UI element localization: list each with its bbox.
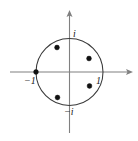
complex-plane-figure: i 1 −1 −i <box>0 0 138 141</box>
root-dot-left <box>34 70 39 75</box>
root-dot-upper-right <box>87 56 92 61</box>
root-dot-lower-right <box>87 84 92 89</box>
label-positive-one: 1 <box>96 76 101 86</box>
label-negative-imaginary-unit: −i <box>64 107 74 117</box>
label-negative-one: −1 <box>24 76 36 86</box>
root-dot-lower-left <box>55 95 60 100</box>
root-dot-upper-left <box>55 45 60 50</box>
unit-circle-diagram <box>0 0 138 141</box>
label-imaginary-unit: i <box>73 29 76 39</box>
